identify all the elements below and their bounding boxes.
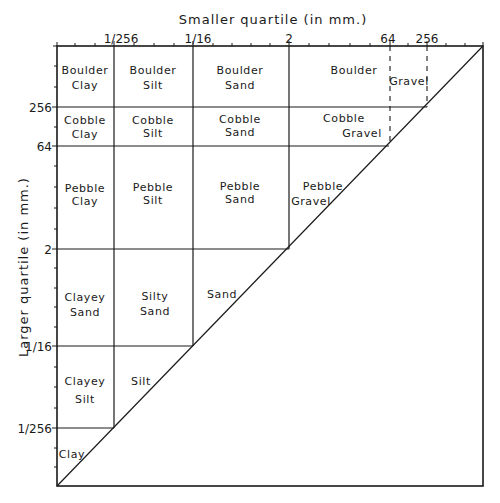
svg-text:Gravel: Gravel [389,75,429,88]
svg-text:Sand: Sand [225,193,255,206]
diagonal-line [57,46,483,486]
svg-text:Sand: Sand [140,305,170,318]
svg-text:Silty: Silty [142,290,169,303]
cell-clayey-silt: Clayey Silt [65,375,106,406]
cell-cobble-clay: Cobble Clay [64,114,106,141]
cell-boulder-clay: Boulder Clay [62,64,109,92]
svg-text:Sand: Sand [70,306,100,319]
cell-cobble-sand: Cobble Sand [219,113,261,139]
cell-gravel: Gravel [389,75,429,88]
svg-text:Clay: Clay [72,195,98,208]
y-tick-label-64: 64 [37,140,52,154]
cell-pebble-silt: Pebble Silt [133,181,173,207]
x-tick-label-1-256: 1/256 [104,32,139,46]
svg-text:Silt: Silt [143,127,163,140]
svg-text:Sand: Sand [207,288,237,301]
cell-cobble-silt: Cobble Silt [132,114,174,140]
cell-pebble-sand: Pebble Sand [220,180,260,206]
cell-boulder-silt: Boulder Silt [130,64,177,92]
svg-text:Gravel: Gravel [291,195,331,208]
cell-silty-sand: Silty Sand [140,290,170,318]
x-axis-title: Smaller quartile (in mm.) [179,12,367,27]
svg-text:Silt: Silt [131,375,151,388]
cell-boulder: Boulder [331,64,378,77]
svg-text:Cobble: Cobble [323,112,365,125]
y-axis-title: Larger quartile (in mm.) [16,177,31,357]
svg-text:Boulder: Boulder [130,64,177,77]
cell-pebble-clay: Pebble Clay [65,182,105,208]
svg-text:Cobble: Cobble [132,114,174,127]
y-tick-label-2: 2 [44,243,52,257]
cell-pebble-gravel: Pebble Gravel [291,180,343,208]
y-tick-label-1-256: 1/256 [17,422,52,436]
svg-text:Boulder: Boulder [331,64,378,77]
x-tick-label-64: 64 [380,32,395,46]
cell-sand: Sand [207,288,237,301]
y-tick-label-256: 256 [29,101,52,115]
sediment-classification-diagram: Smaller quartile (in mm.) Larger quartil… [0,0,500,503]
svg-text:Boulder: Boulder [62,64,109,77]
svg-text:Pebble: Pebble [303,180,343,193]
svg-text:Silt: Silt [143,194,163,207]
cell-clay: Clay [59,448,85,461]
svg-text:Pebble: Pebble [220,180,260,193]
svg-text:Sand: Sand [225,126,255,139]
svg-text:Clayey: Clayey [65,291,106,304]
svg-text:Silt: Silt [75,393,95,406]
svg-text:Gravel: Gravel [342,127,382,140]
svg-text:Cobble: Cobble [219,113,261,126]
svg-text:Boulder: Boulder [217,64,264,77]
cell-cobble-gravel: Cobble Gravel [323,112,382,140]
x-tick-label-1-16: 1/16 [185,32,212,46]
svg-text:Cobble: Cobble [64,114,106,127]
svg-text:Clay: Clay [72,128,98,141]
cell-clayey-sand: Clayey Sand [65,291,106,319]
svg-text:Clay: Clay [59,448,85,461]
svg-text:Clay: Clay [72,79,98,92]
cell-silt: Silt [131,375,151,388]
svg-text:Silt: Silt [143,79,163,92]
svg-text:Pebble: Pebble [133,181,173,194]
cell-boulder-sand: Boulder Sand [217,64,264,92]
y-tick-label-1-16: 1/16 [25,340,52,354]
svg-text:Sand: Sand [225,79,255,92]
svg-text:Pebble: Pebble [65,182,105,195]
svg-text:Clayey: Clayey [65,375,106,388]
